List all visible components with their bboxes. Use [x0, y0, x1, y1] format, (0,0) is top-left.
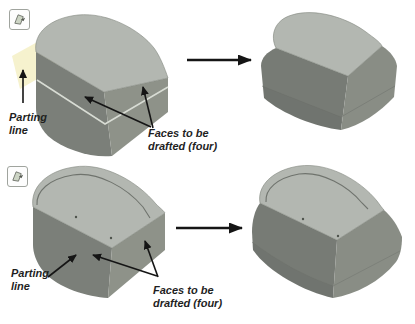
draft-feature-icon [9, 9, 30, 30]
sketch-point [110, 237, 112, 239]
row2-after-model [252, 165, 402, 298]
row2-parting-line-label: Parting line [11, 267, 49, 294]
draft-icon-glyph [10, 169, 25, 184]
sketch-point [337, 235, 339, 237]
row1-after-model [261, 13, 397, 130]
draft-icon-glyph [12, 12, 27, 27]
row1-faces-label: Faces to be drafted (four) [148, 127, 217, 154]
sketch-point [302, 218, 304, 220]
row2-faces-label: Faces to be drafted (four) [153, 284, 222, 311]
row1-parting-line-label: Parting line [9, 111, 47, 138]
row2-before-model [33, 166, 165, 298]
draft-before-after-figure: Parting line Faces to be drafted (four) … [0, 0, 415, 324]
draft-feature-icon [7, 166, 28, 187]
diagram-scene [0, 0, 415, 324]
sketch-point [75, 216, 77, 218]
